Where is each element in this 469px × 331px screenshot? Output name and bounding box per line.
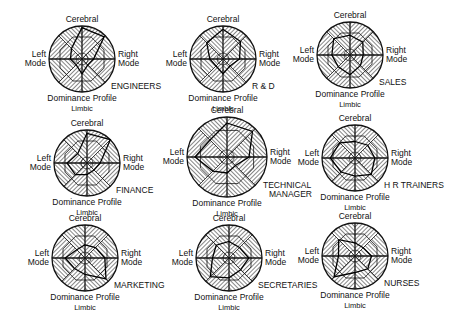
right-mode-label: Right Mode xyxy=(391,247,412,265)
right-label-line2: Mode xyxy=(391,256,412,265)
cerebral-label: Cerebral xyxy=(339,212,372,221)
left-mode-label: Left Mode xyxy=(298,247,319,265)
limbic-label: Limbic xyxy=(344,301,366,310)
dominance-profile-title: Dominance Profile xyxy=(320,291,389,300)
left-label-line2: Mode xyxy=(298,256,319,265)
occupation-label: NURSES xyxy=(384,279,419,288)
